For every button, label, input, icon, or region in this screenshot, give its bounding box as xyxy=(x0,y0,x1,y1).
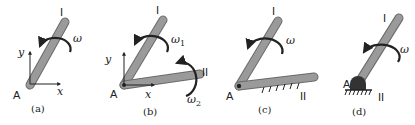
panel-b: I ω1 II ω2 y x A (b) xyxy=(104,4,208,117)
link2-label: II xyxy=(202,66,208,78)
panel-c: I ω II A (c) xyxy=(226,5,314,115)
link-I xyxy=(124,20,163,85)
pivot-label: A xyxy=(110,88,118,100)
panel-caption: (c) xyxy=(258,104,272,115)
link1-label: I xyxy=(383,12,386,24)
omega-label: ω xyxy=(286,34,295,47)
mechanics-figure: I ω y x A (a) I ω1 II ω2 y x A (b) xyxy=(0,0,415,125)
link-I xyxy=(30,22,65,85)
axis-y-label: y xyxy=(17,46,25,59)
omega1-label: ω1 xyxy=(171,33,185,48)
pivot-label: A xyxy=(13,89,21,101)
link1-label: I xyxy=(156,4,159,16)
omega-label: ω xyxy=(73,32,82,45)
omega-label: ω xyxy=(400,43,409,56)
axis-x-label: x xyxy=(57,85,64,98)
link1-label: I xyxy=(272,5,275,17)
ground-label: II xyxy=(378,91,384,103)
panel-caption: (b) xyxy=(143,106,157,117)
link-label: I xyxy=(60,6,63,18)
link-I xyxy=(239,21,278,86)
panel-a: I ω y x A (a) xyxy=(13,6,82,114)
panel-caption: (d) xyxy=(352,106,366,117)
axis-y-label: y xyxy=(104,53,112,66)
panel-caption: (a) xyxy=(31,103,45,114)
link-II xyxy=(239,77,314,86)
omega2-label: ω2 xyxy=(187,93,201,108)
pivot-label: A xyxy=(343,78,351,90)
panel-d: I ω II A (d) xyxy=(343,12,409,117)
pivot-label: A xyxy=(226,90,234,102)
link2-label: II xyxy=(300,90,306,102)
pivot-pin xyxy=(237,84,241,88)
axis-x-label: x xyxy=(145,88,152,101)
link-II xyxy=(124,74,200,85)
